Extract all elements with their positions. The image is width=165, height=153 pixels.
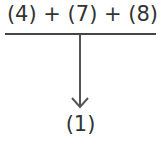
down-arrow-icon <box>66 35 96 110</box>
result-label: (1) <box>0 112 161 136</box>
sum-expression: (4) + (7) + (8) <box>0 2 165 26</box>
